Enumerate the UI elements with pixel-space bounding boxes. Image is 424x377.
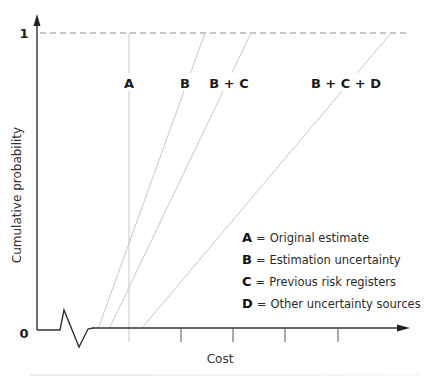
legend-key: B — [242, 252, 252, 267]
legend-text: Original estimate — [270, 231, 369, 245]
x-axis-arrow-icon — [397, 325, 410, 332]
legend-text: Other uncertainty sources — [270, 297, 420, 311]
curve-label-bc: B + C — [209, 76, 248, 91]
legend-item-a: A=Original estimate — [242, 227, 421, 249]
legend-item-d: D=Other uncertainty sources — [242, 293, 421, 315]
legend-item-c: C=Previous risk registers — [242, 271, 421, 293]
legend-equals: = — [256, 253, 266, 267]
legend-key: D — [242, 296, 253, 311]
x-axis-break — [37, 310, 93, 347]
legend-equals: = — [256, 231, 266, 245]
legend-key: C — [242, 274, 252, 289]
y-tick-label-1: 1 — [19, 26, 28, 41]
cropped-caption — [30, 370, 420, 376]
legend-text: Previous risk registers — [269, 275, 396, 289]
y-tick-label-0: 0 — [19, 326, 28, 341]
y-axis-title: Cumulative probability — [10, 127, 24, 263]
curve-label-a: A — [124, 76, 134, 91]
y-axis-arrow-icon — [34, 14, 41, 26]
legend-key: A — [242, 230, 252, 245]
cost-probability-diagram: A B B + C B + C + D 1 0 Cumulative proba… — [0, 0, 424, 377]
cropped-caption-line — [30, 374, 420, 376]
legend-equals: = — [257, 297, 267, 311]
legend-equals: = — [256, 275, 266, 289]
curve-label-b: B — [180, 76, 190, 91]
curve-label-bcd: B + C + D — [311, 76, 381, 91]
x-axis-title: Cost — [207, 352, 234, 366]
legend-text: Estimation uncertainty — [270, 253, 401, 267]
x-axis-ticks — [181, 328, 338, 342]
legend: A=Original estimate B=Estimation uncerta… — [242, 227, 421, 315]
legend-item-b: B=Estimation uncertainty — [242, 249, 421, 271]
